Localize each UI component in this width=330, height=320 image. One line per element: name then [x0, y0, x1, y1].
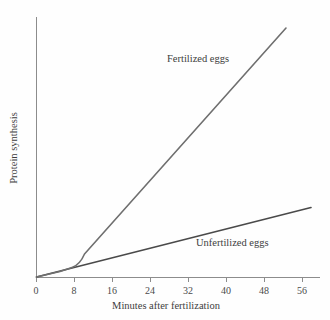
- x-tick-label: 0: [34, 285, 39, 296]
- x-tick-label: 56: [297, 285, 307, 296]
- x-axis-title: Minutes after fertilization: [112, 300, 221, 311]
- chart-canvas: 0 8 16 24 32 40 48 56 Minutes after fert…: [0, 0, 330, 320]
- series-annotation-fertilized-eggs: Fertilized eggs: [167, 53, 229, 64]
- x-tick-label: 8: [72, 285, 77, 296]
- y-axis-title: Protein synthesis: [8, 112, 19, 183]
- series-annotation-unfertilized-eggs: Unfertilized eggs: [196, 237, 269, 248]
- x-tick-label: 40: [221, 285, 231, 296]
- protein-synthesis-chart: 0 8 16 24 32 40 48 56 Minutes after fert…: [0, 0, 330, 320]
- x-tick-label: 16: [107, 285, 117, 296]
- x-tick-label: 32: [183, 285, 193, 296]
- x-tick-label: 24: [145, 285, 155, 296]
- x-tick-label: 48: [259, 285, 269, 296]
- x-axis-tick-labels: 0 8 16 24 32 40 48 56: [34, 285, 308, 296]
